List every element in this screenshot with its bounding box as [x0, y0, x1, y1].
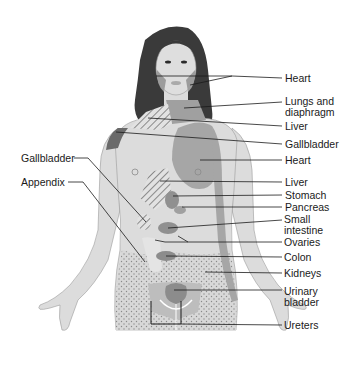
label-gallbladder-shoulder: Gallbladder	[285, 139, 339, 150]
label-stomach: Stomach	[285, 190, 326, 201]
label-ureters: Ureters	[284, 320, 318, 331]
label-liver-abdomen: Liver	[285, 177, 308, 188]
label-lungs-and-diaphragm: Lungs and diaphragm	[285, 96, 347, 118]
label-small-intestine: Small intestine	[284, 214, 334, 236]
label-colon: Colon	[284, 252, 311, 263]
left-eye	[165, 61, 171, 64]
label-liver-neck: Liver	[285, 121, 308, 132]
label-appendix: Appendix	[21, 177, 65, 188]
right-eye	[181, 61, 187, 64]
stomach-region	[165, 191, 179, 209]
label-kidneys: Kidneys	[284, 268, 321, 279]
lips	[171, 81, 181, 85]
label-urinary-bladder: Urinary bladder	[284, 286, 332, 308]
label-gallbladder-abdomen: Gallbladder	[21, 153, 75, 164]
gallbladder-abdomen-region	[137, 214, 151, 230]
label-ovaries: Ovaries	[284, 237, 320, 248]
label-heart-jaw: Heart	[285, 73, 311, 84]
label-heart-chest: Heart	[285, 155, 311, 166]
label-pancreas: Pancreas	[285, 202, 329, 213]
